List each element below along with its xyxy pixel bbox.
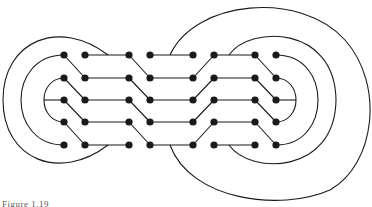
figure-caption: Figure 1.19 <box>2 199 49 207</box>
edges <box>64 55 276 145</box>
arcs <box>3 8 370 201</box>
network-diagram <box>0 0 372 207</box>
